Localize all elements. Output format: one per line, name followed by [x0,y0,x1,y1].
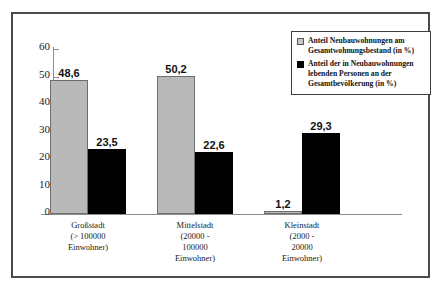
bar-kleinstadt-personenanteil[interactable]: 29,3 [302,133,340,214]
category-line: Einwohner) [140,253,250,264]
bar-mittelstadt-neubauanteil[interactable]: 50,2 [157,76,195,214]
bar-mittelstadt-personenanteil[interactable]: 22,6 [195,152,233,214]
gray-swatch-icon [297,38,304,45]
legend-item-label: Anteil Neubauwohnungen am Gesamtwohnungs… [308,36,425,56]
y-axis-tick-label: 60 [39,41,50,52]
legend-item-personenanteil[interactable]: Anteil der in Neubauwohnungen lebenden P… [297,59,425,89]
x-axis-category-mittelstadt: Mittelstadt (20000 - 100000 Einwohner) [140,220,250,264]
bar-value-label: 1,2 [275,198,290,210]
chart-frame: 0 10 20 30 40 50 60 48,6 [11,12,430,278]
y-axis-tick-label: 30 [39,124,50,135]
bar-grossstadt-personenanteil[interactable]: 23,5 [88,149,126,214]
category-line: (> 100000 [33,231,143,242]
y-axis-tick-label: 50 [39,69,50,80]
category-line: Einwohner) [33,242,143,253]
y-axis-tick-mark [53,49,59,50]
bar-grossstadt-neubauanteil[interactable]: 48,6 [50,80,88,214]
bar-value-label: 48,6 [58,67,79,79]
bar-value-label: 23,5 [96,136,117,148]
y-axis-tick-60: 60 [13,49,59,50]
bar-kleinstadt-neubauanteil[interactable]: 1,2 [264,211,302,214]
category-line: (2000 - [247,231,357,242]
y-axis-tick-mark [53,214,59,215]
bar-value-label: 50,2 [165,63,186,75]
category-line: Großstadt [33,220,143,231]
x-axis-category-kleinstadt: Kleinstadt (2000 - 20000 Einwohner) [247,220,357,264]
category-line: 100000 [140,242,250,253]
category-line: 20000 [247,242,357,253]
y-axis-tick-50: 50 [13,77,59,78]
x-axis-line [41,214,402,215]
y-axis-tick-label: 10 [39,179,50,190]
legend-item-label: Anteil der in Neubauwohnungen lebenden P… [308,59,425,89]
category-line: Einwohner) [247,253,357,264]
chart-legend: Anteil Neubauwohnungen am Gesamtwohnungs… [291,31,431,95]
x-axis-category-grossstadt: Großstadt (> 100000 Einwohner) [33,220,143,253]
y-axis-tick-label: 40 [39,96,50,107]
y-axis-tick-label: 20 [39,151,50,162]
black-swatch-icon [297,61,304,68]
category-line: (20000 - [140,231,250,242]
category-line: Mittelstadt [140,220,250,231]
bar-value-label: 29,3 [310,120,331,132]
y-axis-tick-0: 0 [13,214,59,215]
legend-item-neubauanteil[interactable]: Anteil Neubauwohnungen am Gesamtwohnungs… [297,36,425,56]
category-line: Kleinstadt [247,220,357,231]
plot-area: 0 10 20 30 40 50 60 48,6 [13,14,428,276]
bar-value-label: 22,6 [203,139,224,151]
